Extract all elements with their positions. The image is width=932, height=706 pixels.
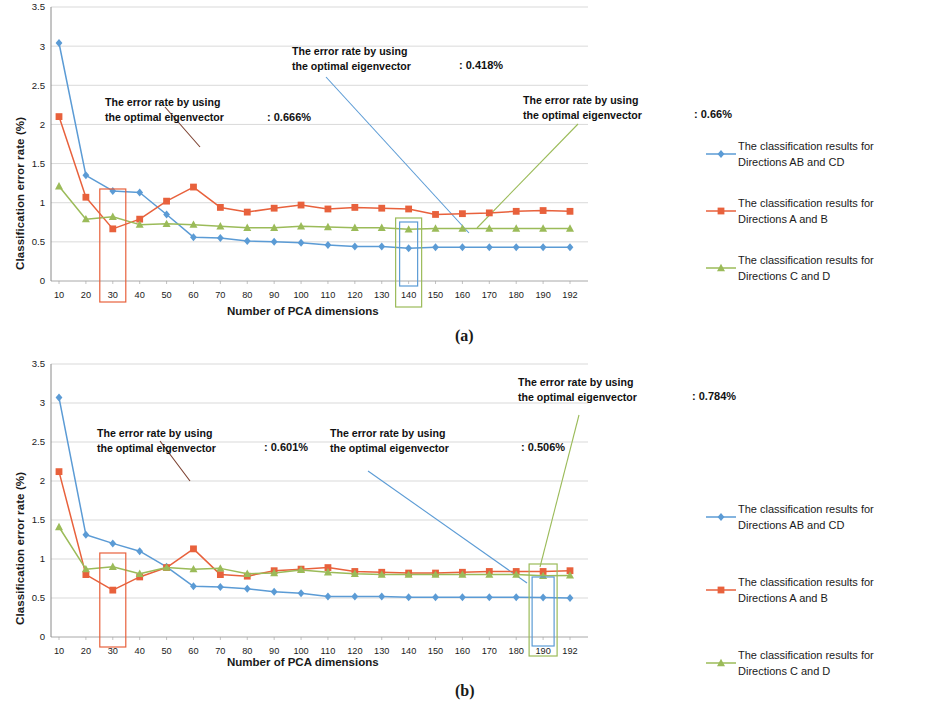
data-point-marker	[82, 171, 89, 179]
data-point-marker	[567, 208, 574, 215]
data-point-marker	[540, 207, 547, 214]
data-point-marker	[190, 582, 197, 590]
x-tick-label: 190	[535, 646, 550, 656]
data-point-marker	[378, 592, 385, 600]
annotation-30-text-b: The error rate by using the optimal eige…	[97, 426, 216, 455]
highlight-box	[100, 189, 126, 302]
data-point-marker	[459, 593, 466, 601]
x-tick-label: 90	[269, 290, 279, 300]
highlight-box	[532, 577, 554, 646]
data-point-marker	[56, 468, 63, 475]
x-tick-label: 100	[293, 290, 308, 300]
data-point-marker	[325, 592, 332, 600]
x-tick-label: 140	[401, 290, 416, 300]
y-tick-label: 2	[40, 119, 45, 130]
y-tick-label: 3	[40, 397, 45, 408]
x-tick-label: 130	[374, 290, 389, 300]
data-point-marker	[109, 587, 116, 594]
data-point-marker	[351, 243, 358, 251]
data-point-marker	[405, 206, 412, 213]
x-tick-label: 50	[161, 646, 171, 656]
square-marker-icon	[706, 582, 736, 592]
square-marker-icon	[706, 203, 736, 213]
x-tick-label: 60	[188, 290, 198, 300]
y-tick-label: 0	[40, 631, 45, 642]
x-tick-label: 170	[482, 646, 497, 656]
data-point-marker	[56, 394, 63, 402]
data-point-marker	[567, 594, 574, 602]
data-point-marker	[217, 234, 224, 242]
data-point-marker	[718, 208, 725, 215]
data-point-marker	[109, 225, 116, 232]
triangle-marker-icon	[706, 655, 736, 665]
x-tick-label: 180	[509, 290, 524, 300]
x-tick-label: 60	[188, 646, 198, 656]
data-point-marker	[244, 585, 251, 593]
x-tick-label: 150	[428, 646, 443, 656]
y-tick-label: 3.5	[32, 358, 45, 369]
data-point-marker	[432, 211, 439, 218]
y-axis-title-a: Classification error rate (%)	[14, 117, 26, 270]
data-point-marker	[56, 113, 63, 120]
data-point-marker	[405, 593, 412, 601]
y-tick-label: 2.5	[32, 80, 45, 91]
data-point-marker	[55, 523, 63, 530]
panel-caption-b: (b)	[455, 682, 475, 700]
triangle-marker-icon	[706, 260, 736, 270]
y-tick-label: 1.5	[32, 514, 45, 525]
x-tick-label: 50	[161, 290, 171, 300]
data-point-marker	[486, 209, 493, 216]
x-tick-label: 192	[562, 290, 577, 300]
data-point-marker	[540, 594, 547, 602]
data-point-marker	[190, 545, 197, 552]
chart-svg-a: 00.511.522.533.5102030405060708090100110…	[0, 0, 932, 353]
data-point-marker	[351, 592, 358, 600]
data-point-marker	[298, 239, 305, 247]
data-point-marker	[109, 187, 116, 195]
data-point-marker	[271, 588, 278, 596]
annotation-140-blue-value-a: : 0.418%	[459, 59, 503, 71]
annotation-30-text-a: The error rate by using the optimal eige…	[105, 95, 224, 124]
data-point-marker	[486, 243, 493, 251]
x-tick-label: 160	[455, 290, 470, 300]
data-point-marker	[513, 208, 520, 215]
x-tick-label: 120	[347, 290, 362, 300]
x-tick-label: 100	[293, 646, 308, 656]
x-tick-label: 30	[108, 290, 118, 300]
data-point-marker	[82, 531, 89, 539]
y-tick-label: 0.5	[32, 236, 45, 247]
legend-label: The classification results for Direction…	[738, 648, 932, 680]
annotation-leader-line	[326, 77, 469, 233]
data-point-marker	[325, 206, 332, 213]
annotation-140-green-value-a: : 0.66%	[694, 108, 732, 120]
annotation-30-value-b: : 0.601%	[264, 441, 308, 453]
x-axis-title-b: Number of PCA dimensions	[227, 656, 379, 668]
x-tick-label: 110	[321, 290, 336, 300]
y-tick-label: 3	[40, 41, 45, 52]
data-point-marker	[432, 593, 439, 601]
x-tick-label: 70	[215, 646, 225, 656]
annotation-leader-line	[540, 415, 579, 567]
x-tick-label: 130	[374, 646, 389, 656]
data-point-marker	[55, 182, 63, 189]
y-tick-label: 0	[40, 275, 45, 286]
x-tick-label: 150	[428, 290, 443, 300]
annotation-190-blue-text-b: The error rate by using the optimal eige…	[330, 426, 449, 455]
series-line	[59, 117, 570, 229]
data-point-marker	[459, 243, 466, 251]
y-tick-label: 1	[40, 553, 45, 564]
x-tick-label: 70	[215, 290, 225, 300]
legend-label: The classification results for Direction…	[738, 196, 932, 228]
x-tick-label: 80	[242, 646, 252, 656]
data-point-marker	[540, 243, 547, 251]
data-point-marker	[718, 150, 725, 158]
plot-area-a: 00.511.522.533.5102030405060708090100110…	[0, 0, 932, 353]
annotation-140-green-text-a: The error rate by using the optimal eige…	[523, 93, 642, 122]
data-point-marker	[567, 243, 574, 251]
x-tick-label: 20	[81, 646, 91, 656]
data-point-marker	[378, 205, 385, 212]
data-point-marker	[217, 571, 224, 578]
chart-panel-a: 00.511.522.533.5102030405060708090100110…	[0, 0, 932, 353]
data-point-marker	[718, 513, 725, 521]
data-point-marker	[244, 237, 251, 245]
